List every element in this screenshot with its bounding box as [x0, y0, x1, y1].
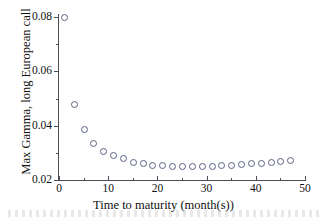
- x-tick-label: 30: [201, 183, 213, 195]
- x-tick-minor: [182, 178, 183, 181]
- y-tick: [54, 17, 59, 18]
- caption-smudge: [8, 210, 319, 217]
- y-tick-label: 0.02: [32, 174, 52, 186]
- y-tick-label: 0.08: [32, 11, 52, 23]
- data-point: [169, 163, 176, 170]
- data-point: [90, 140, 97, 147]
- x-tick-minor: [231, 178, 232, 181]
- data-point: [130, 159, 137, 166]
- data-point: [81, 126, 88, 133]
- data-point: [199, 163, 206, 170]
- y-axis-title: Max Gamma, long European call: [19, 2, 34, 182]
- y-tick-label: 0.04: [32, 120, 52, 132]
- data-point: [228, 162, 235, 169]
- data-point: [71, 101, 78, 108]
- y-tick-minor: [56, 153, 59, 154]
- data-point: [120, 155, 127, 162]
- x-tick-label: 20: [152, 183, 164, 195]
- plot-area: [59, 14, 305, 180]
- data-point: [100, 148, 107, 155]
- data-point: [209, 163, 216, 170]
- data-point: [258, 160, 265, 167]
- x-tick-label: 10: [102, 183, 114, 195]
- x-tick-label: 40: [250, 183, 262, 195]
- x-tick: [305, 176, 306, 181]
- x-tick: [59, 176, 60, 181]
- y-tick: [54, 126, 59, 127]
- data-point: [61, 14, 68, 21]
- y-axis-line: [58, 14, 59, 181]
- x-tick-label: 50: [299, 183, 311, 195]
- x-tick: [157, 176, 158, 181]
- data-point: [268, 159, 275, 166]
- y-tick-label: 0.06: [32, 65, 52, 77]
- data-point: [189, 163, 196, 170]
- x-tick: [108, 176, 109, 181]
- x-tick-minor: [133, 178, 134, 181]
- chart-figure: 0.020.040.060.08 01020304050 Time to mat…: [0, 0, 327, 220]
- y-tick-minor: [56, 99, 59, 100]
- x-tick: [207, 176, 208, 181]
- y-tick-minor: [56, 44, 59, 45]
- x-tick-minor: [84, 178, 85, 181]
- data-point: [179, 163, 186, 170]
- x-tick-minor: [280, 178, 281, 181]
- x-tick-label: 0: [56, 183, 62, 195]
- data-point: [238, 161, 245, 168]
- x-tick: [256, 176, 257, 181]
- y-tick: [54, 71, 59, 72]
